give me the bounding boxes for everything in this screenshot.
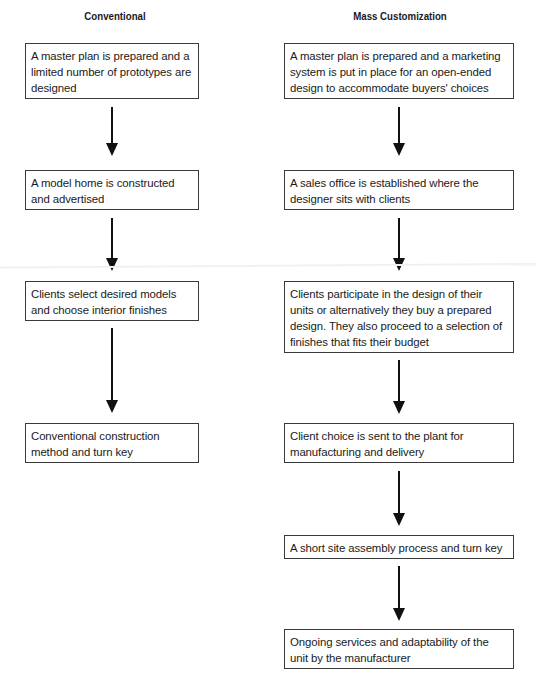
arrow-down-icon — [106, 328, 118, 413]
mass-customization-step-6: Ongoing services and adaptability of the… — [284, 629, 514, 669]
arrow-down-icon — [106, 218, 118, 270]
conventional-step-1: A master plan is prepared and a limited … — [25, 43, 199, 99]
arrow-down-icon — [393, 566, 405, 621]
mass-customization-step-4: Client choice is sent to the plant for m… — [284, 423, 514, 463]
arrow-down-icon — [106, 107, 118, 156]
mass-customization-step-3: Clients participate in the design of the… — [284, 281, 514, 353]
mass-customization-step-5: A short site assembly process and turn k… — [284, 535, 514, 559]
scan-fold-line — [0, 263, 536, 269]
conventional-step-2: A model home is constructed and advertis… — [25, 170, 199, 210]
column-title-conventional: Conventional — [36, 10, 194, 22]
arrow-down-icon — [393, 471, 405, 526]
arrow-down-icon — [393, 360, 405, 414]
mass-customization-step-1: A master plan is prepared and a marketin… — [284, 43, 514, 99]
arrow-down-icon — [393, 218, 405, 270]
arrow-down-icon — [393, 107, 405, 156]
conventional-step-3: Clients select desired models and choose… — [25, 281, 199, 321]
column-title-mass-customization: Mass Customization — [303, 10, 497, 22]
mass-customization-step-2: A sales office is established where the … — [284, 170, 514, 210]
conventional-step-4: Conventional construction method and tur… — [25, 423, 199, 463]
